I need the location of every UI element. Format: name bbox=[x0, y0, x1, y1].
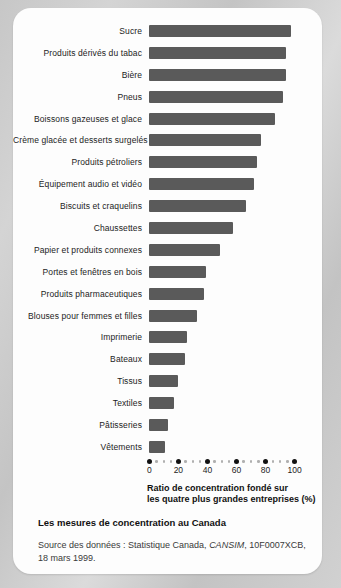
chart-row: Pâtisseries bbox=[13, 414, 322, 436]
bar bbox=[149, 222, 233, 234]
figure-card: SucreProduits dérivés du tabacBièrePneus… bbox=[13, 8, 322, 574]
category-label: Textiles bbox=[13, 398, 145, 408]
x-axis-caption: Ratio de concentration fondé sur les qua… bbox=[147, 483, 316, 505]
category-label: Produits pétroliers bbox=[13, 157, 145, 167]
category-label: Produits pharmaceutiques bbox=[13, 289, 145, 299]
chart-row: Équipement audio et vidéo bbox=[13, 173, 322, 195]
axis-minor-dot bbox=[163, 460, 166, 463]
source-emphasis: CANSIM bbox=[209, 540, 244, 550]
axis-minor-dot bbox=[155, 460, 158, 463]
bar bbox=[149, 156, 257, 168]
axis-minor-dot bbox=[170, 460, 173, 463]
axis-tick-label: 0 bbox=[134, 465, 164, 475]
chart-row: Produits pharmaceutiques bbox=[13, 283, 322, 305]
category-label: Tissus bbox=[13, 376, 145, 386]
bar bbox=[149, 134, 261, 146]
category-label: Pneus bbox=[13, 92, 145, 102]
axis-minor-dot bbox=[228, 460, 231, 463]
category-label: Équipement audio et vidéo bbox=[13, 179, 145, 189]
category-label: Bateaux bbox=[13, 354, 145, 364]
axis-minor-dot bbox=[184, 460, 187, 463]
axis-minor-dot bbox=[272, 460, 275, 463]
axis-tick-label: 60 bbox=[221, 465, 251, 475]
bar bbox=[149, 47, 286, 59]
chart-row: Papier et produits connexes bbox=[13, 239, 322, 261]
axis-minor-dot bbox=[257, 460, 260, 463]
category-label: Crème glacée et desserts surgelés bbox=[13, 135, 145, 145]
category-label: Biscuits et craquelins bbox=[13, 201, 145, 211]
axis-dot bbox=[234, 459, 239, 464]
bar bbox=[149, 331, 187, 343]
chart-row: Portes et fenêtres en bois bbox=[13, 261, 322, 283]
axis-tick-label: 20 bbox=[163, 465, 193, 475]
bar bbox=[149, 353, 185, 365]
axis-dot bbox=[176, 459, 181, 464]
chart-row: Bateaux bbox=[13, 348, 322, 370]
chart-row: Vêtements bbox=[13, 436, 322, 458]
bar bbox=[149, 200, 246, 212]
source-line2: 18 mars 1999. bbox=[38, 552, 308, 565]
chart-row: Pneus bbox=[13, 86, 322, 108]
bar bbox=[149, 113, 275, 125]
chart-row: Tissus bbox=[13, 370, 322, 392]
bar bbox=[149, 288, 204, 300]
chart-row: Bière bbox=[13, 64, 322, 86]
category-label: Produits dérivés du tabac bbox=[13, 48, 145, 58]
category-label: Papier et produits connexes bbox=[13, 245, 145, 255]
bar bbox=[149, 419, 168, 431]
chart-row: Crème glacée et desserts surgelés bbox=[13, 129, 322, 151]
category-label: Pâtisseries bbox=[13, 420, 145, 430]
axis-minor-dot bbox=[192, 460, 195, 463]
axis-dot bbox=[205, 459, 210, 464]
category-label: Sucre bbox=[13, 26, 145, 36]
category-label: Boissons gazeuses et glace bbox=[13, 114, 145, 124]
bar-chart: SucreProduits dérivés du tabacBièrePneus… bbox=[13, 20, 322, 458]
source-line1: Source des données : Statistique Canada,… bbox=[38, 539, 308, 552]
axis-minor-dot bbox=[279, 460, 282, 463]
category-label: Imprimerie bbox=[13, 332, 145, 342]
source-suffix: , 10F0007XCB, bbox=[244, 540, 306, 550]
axis-tick-label: 100 bbox=[280, 465, 310, 475]
bar bbox=[149, 375, 178, 387]
bar bbox=[149, 91, 283, 103]
axis-minor-dot bbox=[242, 460, 245, 463]
bar bbox=[149, 244, 220, 256]
bar bbox=[149, 266, 206, 278]
bar bbox=[149, 25, 291, 37]
axis-tick-label: 80 bbox=[251, 465, 281, 475]
chart-row: Textiles bbox=[13, 392, 322, 414]
category-label: Bière bbox=[13, 70, 145, 80]
chart-row: Produits pétroliers bbox=[13, 151, 322, 173]
axis-dot bbox=[147, 459, 152, 464]
source-prefix: Source des données : Statistique Canada, bbox=[38, 540, 209, 550]
bar bbox=[149, 310, 197, 322]
bar bbox=[149, 178, 254, 190]
chart-row: Biscuits et craquelins bbox=[13, 195, 322, 217]
axis-dot bbox=[263, 459, 268, 464]
chart-row: Blouses pour femmes et filles bbox=[13, 305, 322, 327]
page-background: SucreProduits dérivés du tabacBièrePneus… bbox=[0, 0, 341, 588]
chart-row: Produits dérivés du tabac bbox=[13, 42, 322, 64]
chart-row: Chaussettes bbox=[13, 217, 322, 239]
axis-minor-dot bbox=[286, 460, 289, 463]
figure-title: Les mesures de concentration au Canada bbox=[38, 517, 226, 528]
axis-dot bbox=[292, 459, 297, 464]
x-axis-caption-line2: les quatre plus grandes entreprises (%) bbox=[147, 494, 316, 505]
source-note: Source des données : Statistique Canada,… bbox=[38, 539, 308, 565]
axis-tick-label: 40 bbox=[192, 465, 222, 475]
category-label: Vêtements bbox=[13, 442, 145, 452]
chart-row: Sucre bbox=[13, 20, 322, 42]
bar bbox=[149, 397, 174, 409]
chart-row: Imprimerie bbox=[13, 326, 322, 348]
axis-minor-dot bbox=[199, 460, 202, 463]
category-label: Portes et fenêtres en bois bbox=[13, 267, 145, 277]
x-axis-caption-line1: Ratio de concentration fondé sur bbox=[147, 483, 316, 494]
axis-minor-dot bbox=[213, 460, 216, 463]
bar bbox=[149, 441, 165, 453]
chart-row: Boissons gazeuses et glace bbox=[13, 108, 322, 130]
category-label: Blouses pour femmes et filles bbox=[13, 311, 145, 321]
axis-minor-dot bbox=[250, 460, 253, 463]
category-label: Chaussettes bbox=[13, 223, 145, 233]
bar bbox=[149, 69, 286, 81]
axis-minor-dot bbox=[221, 460, 224, 463]
